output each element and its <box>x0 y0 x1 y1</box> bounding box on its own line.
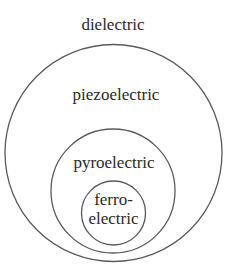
label-piezoelectric: piezoelectric <box>73 85 160 104</box>
nested-set-diagram: dielectric piezoelectric pyroelectric fe… <box>0 0 235 280</box>
label-dielectric: dielectric <box>81 15 145 34</box>
label-ferroelectric-line2: electric <box>88 209 138 228</box>
label-ferroelectric-line1: ferro- <box>94 190 133 209</box>
label-pyroelectric: pyroelectric <box>73 153 155 172</box>
